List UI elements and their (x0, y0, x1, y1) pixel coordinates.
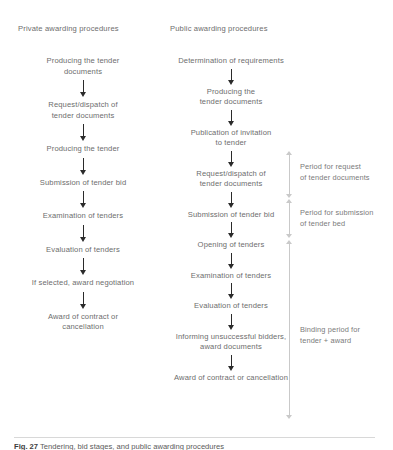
flow-node: Evaluation of tenders (194, 301, 268, 312)
flow-node: Examination of tenders (43, 211, 123, 222)
flow-node: Submission of tender bid (40, 178, 126, 189)
period-bracket-binding-label: Binding period for tender + award (300, 325, 360, 346)
flow-arrow-icon (227, 222, 236, 238)
bracket-cap-down-icon (286, 415, 292, 419)
flow-node: Evaluation of tenders (46, 245, 120, 256)
period-bracket-submission (286, 199, 293, 238)
figure-caption: Fig. 27 Tendering, bid stages, and publi… (14, 442, 354, 450)
period-bracket-request-label: Period for request of tender documents (300, 162, 370, 183)
flow-arrow-icon (79, 124, 88, 141)
flow-arrow-icon (227, 253, 236, 269)
flow-column-public: Determination of requirements Producing … (165, 56, 297, 383)
column-heading-private: Private awarding procedures (18, 24, 119, 33)
bracket-line (289, 155, 290, 194)
flow-arrow-icon (227, 314, 236, 330)
flow-node: Producing the tender (47, 144, 120, 155)
flow-arrow-icon (79, 225, 88, 242)
bracket-cap-down-icon (286, 194, 292, 198)
flow-node: Producing the tender documents (200, 87, 263, 108)
flow-node: If selected, award negotiation (32, 278, 134, 289)
flow-arrow-icon (227, 355, 236, 371)
column-heading-public: Public awarding procedures (170, 24, 268, 33)
flow-node: Determination of requirements (178, 56, 284, 67)
flowchart-figure: Private awarding procedures Public award… (0, 0, 393, 450)
flow-arrow-icon (79, 80, 88, 97)
flow-arrow-icon (79, 191, 88, 208)
flow-column-private: Producing the tender documents Request/d… (8, 56, 158, 333)
flow-node: Examination of tenders (191, 271, 271, 282)
flow-node: Informing unsuccessful bidders, award do… (176, 332, 287, 353)
flow-node: Request/dispatch of tender documents (196, 169, 265, 190)
figure-caption-text: Tendering, bid stages, and public awardi… (40, 442, 224, 450)
flow-arrow-icon (227, 110, 236, 126)
flow-node: Award of contract or cancellation (48, 312, 118, 333)
bracket-line (289, 244, 290, 415)
caption-divider (14, 437, 375, 438)
flow-node: Request/dispatch of tender documents (48, 100, 117, 121)
flow-arrow-icon (79, 258, 88, 275)
flow-arrow-icon (227, 151, 236, 167)
flow-node: Opening of tenders (198, 240, 265, 251)
period-bracket-binding (286, 240, 293, 419)
flow-arrow-icon (227, 283, 236, 299)
flow-arrow-icon (79, 292, 88, 309)
period-bracket-request (286, 151, 293, 198)
flow-arrow-icon (227, 69, 236, 85)
flow-node: Producing the tender documents (47, 56, 120, 77)
flow-arrow-icon (227, 192, 236, 208)
period-bracket-submission-label: Period for submission of tender bed (300, 208, 374, 229)
flow-node: Publication of invitation to tender (191, 128, 272, 149)
bracket-line (289, 203, 290, 234)
flow-arrow-icon (79, 158, 88, 175)
flow-node: Submission of tender bid (188, 210, 274, 221)
flow-node: Award of contract or cancellation (174, 373, 288, 384)
bracket-cap-down-icon (286, 234, 292, 238)
figure-caption-number: Fig. 27 (14, 442, 38, 450)
